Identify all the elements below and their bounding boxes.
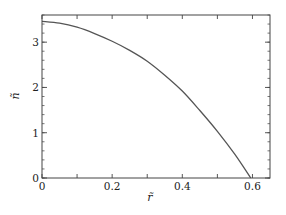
x-tick-label: 0 <box>39 180 46 192</box>
y-tick-labels: 0123 <box>32 36 39 184</box>
chart: 00.20.40.6 0123 r̃ ñ <box>0 0 286 215</box>
y-tick-label: 2 <box>32 81 39 93</box>
y-tick-label: 0 <box>32 172 39 184</box>
x-tick-label: 0.4 <box>174 180 191 192</box>
minor-ticks <box>42 15 270 178</box>
y-tick-label: 1 <box>32 127 39 139</box>
x-axis-label: r̃ <box>147 191 153 204</box>
x-tick-label: 0.2 <box>104 180 121 192</box>
y-tick-label: 3 <box>32 36 39 48</box>
x-tick-label: 0.6 <box>244 180 261 192</box>
data-line <box>42 21 251 178</box>
major-ticks <box>42 15 270 178</box>
y-axis-label: ñ <box>9 92 22 99</box>
plot-frame <box>42 15 270 178</box>
